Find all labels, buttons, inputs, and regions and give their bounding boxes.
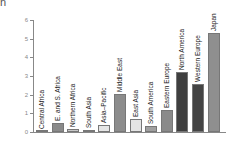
y-tick-label: 5 [20,36,28,42]
bar-south-america [145,126,157,132]
bar-label: North America [178,29,185,70]
bar-label: South America [147,82,154,124]
y-tick [30,113,34,114]
bar-label: South Asia [85,97,92,128]
bar-label: Eastern Europe [163,62,170,107]
y-tick [30,39,34,40]
bar-east-asia [130,119,142,132]
unit-label: n [0,0,6,8]
bar-label: Japan [210,13,217,31]
bar-asia-pacific [98,125,110,132]
bar-label: Central Africa [38,90,45,129]
bar-central-africa [36,130,48,132]
bar-eastern-europe [161,110,173,132]
bar-northern-africa [67,129,79,132]
bar-middle-east [114,94,126,132]
y-tick [30,95,34,96]
y-tick-label: 0 [20,129,28,135]
bar-south-asia [83,130,95,132]
y-tick [30,57,34,58]
y-tick-label: 2 [20,92,28,98]
bar-label: Middle East [116,58,123,92]
bar-e-and-s-africa [52,123,64,132]
y-tick [30,132,34,133]
bar-western-europe [192,84,204,132]
bar-label: Northern Africa [69,84,76,127]
bar-japan [208,33,220,132]
bar-north-america [176,72,188,132]
y-tick-label: 1 [20,110,28,116]
y-tick-label: 6 [20,17,28,23]
bar-label: Asia–Pacific [100,88,107,123]
x-axis [33,132,226,133]
y-tick [30,20,34,21]
bar-label: Western Europe [194,35,201,82]
y-tick-label: 3 [20,73,28,79]
y-tick [30,76,34,77]
bar-label: East Asia [132,90,139,117]
y-tick-label: 4 [20,54,28,60]
bar-label: E. and S. Africa [54,76,61,121]
